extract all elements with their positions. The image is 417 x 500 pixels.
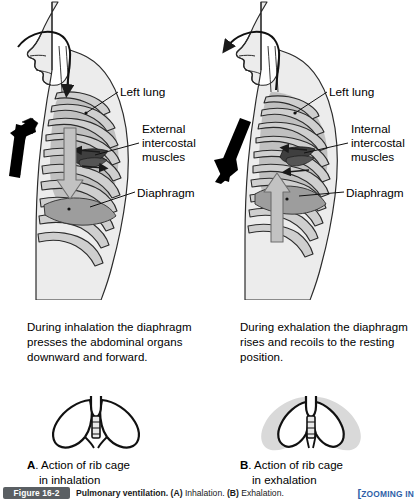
zooming-in-label: ZOOMING IN: [361, 489, 414, 499]
panel-b-exhalation: Left lung Internal intercostal muscles D…: [209, 0, 417, 484]
caption-a-text: Inhalation.: [185, 488, 225, 498]
label-intercostal-muscles-b: Internal intercostal muscles: [351, 122, 405, 165]
caption-b-text: Exhalation.: [241, 488, 284, 498]
panel-caption-a-line2: in inhalation: [39, 473, 209, 488]
panel-a-inhalation: Left lung External intercostal muscles D…: [0, 0, 208, 484]
panel-caption-b: B. Action of rib cage in exhalation: [240, 458, 417, 487]
ribcage-movement-arrow-down: [214, 118, 251, 184]
description-inhalation: During inhalation the diaphragm presses …: [27, 320, 207, 366]
figure-caption-bar: Figure 16-2 Pulmonary ventilation. (A) I…: [0, 487, 417, 500]
label-diaphragm-a: Diaphragm: [137, 186, 195, 200]
description-exhalation: During exhalation the diaphragm rises an…: [240, 320, 417, 366]
caption-a-label: (A): [171, 488, 183, 498]
caption-b-label: (B): [227, 488, 239, 498]
panel-caption-a: A. Action of rib cage in inhalation: [27, 458, 209, 487]
panel-caption-a-line1: . Action of rib cage: [35, 459, 130, 471]
figure-number-badge: Figure 16-2: [3, 487, 70, 499]
lung-icon-exhalation: [259, 392, 363, 454]
label-left-lung-a: Left lung: [120, 85, 165, 99]
label-left-lung-b: Left lung: [329, 85, 374, 99]
figure-caption-text: Pulmonary ventilation. (A) Inhalation. (…: [76, 487, 284, 499]
pulmonary-ventilation-figure: Left lung External intercostal muscles D…: [0, 0, 417, 500]
ribcage-movement-arrow-up: [9, 118, 38, 178]
panel-caption-b-line2: in exhalation: [252, 473, 417, 488]
caption-title: Pulmonary ventilation.: [76, 488, 168, 498]
panel-caption-b-line1: . Action of rib cage: [248, 459, 343, 471]
lung-icon-inhalation: [44, 392, 148, 454]
zooming-in-tag: [ZOOMING IN: [357, 487, 414, 500]
label-diaphragm-b: Diaphragm: [346, 186, 404, 200]
label-intercostal-muscles-a: External intercostal muscles: [142, 122, 196, 165]
